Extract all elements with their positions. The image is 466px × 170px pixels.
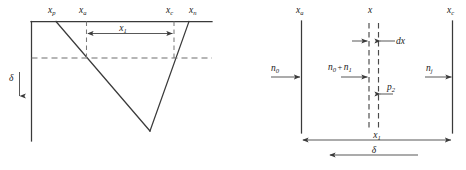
label-xa-left: xa bbox=[78, 5, 87, 16]
label-p2: p2 bbox=[386, 82, 396, 93]
label-xc-right: xc bbox=[446, 5, 454, 16]
label-x1-right: x1 bbox=[372, 130, 381, 141]
label-xn: xn bbox=[188, 5, 197, 16]
label-delta-left: δ bbox=[9, 73, 14, 83]
label-xp: xp bbox=[47, 5, 56, 16]
figure-root: xp xa xc xn x1 δ bbox=[0, 0, 466, 170]
label-nj: nj bbox=[426, 63, 433, 74]
label-x-center: x bbox=[367, 5, 373, 15]
right-panel-group: xa x xc n0 n0+n1 nj dx p2 x1 δ bbox=[271, 5, 454, 155]
diagram-canvas: xp xa xc xn x1 δ bbox=[0, 0, 466, 170]
label-dx: dx bbox=[396, 36, 406, 46]
label-xc-left: xc bbox=[165, 5, 173, 16]
label-n0: n0 bbox=[271, 63, 280, 74]
label-n0-plus-n1: n0+n1 bbox=[328, 62, 352, 73]
deflection-right-leg bbox=[150, 22, 189, 132]
left-panel-group: xp xa xc xn x1 δ bbox=[9, 5, 212, 141]
label-xa-right: xa bbox=[295, 5, 304, 16]
label-x1-left: x1 bbox=[118, 23, 127, 34]
label-delta-right: δ bbox=[372, 145, 377, 155]
deflection-left-leg bbox=[56, 22, 150, 132]
